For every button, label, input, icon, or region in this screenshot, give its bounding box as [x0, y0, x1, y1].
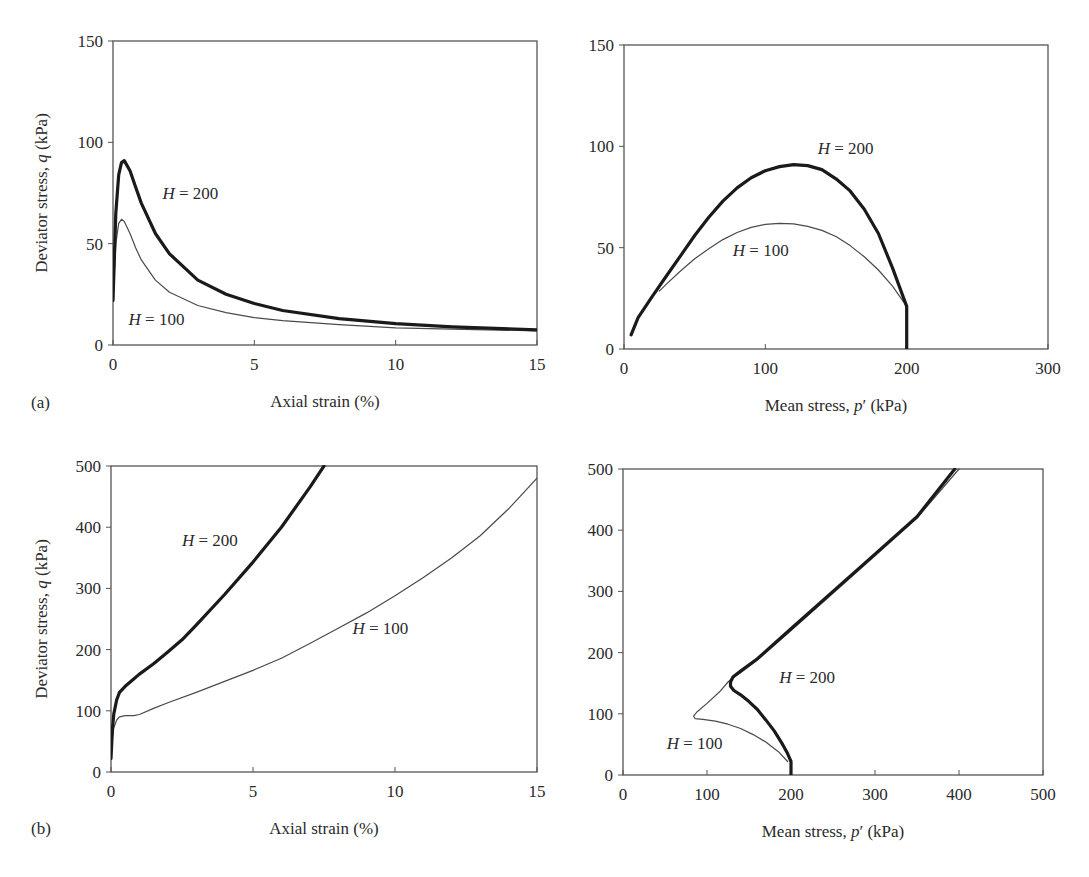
x-tick-label: 0 — [619, 785, 628, 804]
x-tick-label: 300 — [1035, 359, 1061, 378]
x-axis-label: Axial strain (%) — [269, 819, 379, 838]
chart-b-right-stress-path: 01002003004005000100200300400500Mean str… — [588, 460, 1056, 841]
x-tick-label: 10 — [387, 355, 404, 374]
x-axis-label: Axial strain (%) — [270, 392, 380, 411]
y-tick-label: 400 — [588, 521, 614, 540]
x-axis-label: Mean stress, p′ (kPa) — [762, 822, 905, 841]
chart-b-left-stress-strain: 0510150100200300400500Axial strain (%)De… — [32, 457, 546, 838]
x-tick-label: 500 — [1030, 785, 1056, 804]
x-tick-label: 5 — [250, 355, 259, 374]
x-tick-label: 200 — [894, 359, 920, 378]
y-tick-label: 0 — [93, 763, 102, 782]
y-tick-label: 0 — [95, 336, 104, 355]
panel-label-b: (b) — [31, 819, 51, 838]
x-tick-label: 5 — [249, 782, 258, 801]
chart-a-left-stress-strain: 051015050100150Axial strain (%)Deviator … — [32, 32, 546, 411]
series-h100 — [111, 478, 537, 758]
y-tick-label: 100 — [76, 702, 102, 721]
y-tick-label: 50 — [86, 235, 103, 254]
curve-annotation: H = 100 — [666, 734, 723, 753]
y-axis-label: Deviator stress, q (kPa) — [32, 113, 51, 273]
y-tick-label: 100 — [589, 137, 615, 156]
y-tick-label: 0 — [605, 766, 614, 785]
curve-annotation: H = 200 — [817, 139, 874, 158]
x-tick-label: 100 — [694, 785, 720, 804]
curve-annotation: H = 200 — [181, 531, 238, 550]
plot-frame — [623, 469, 1043, 775]
y-tick-label: 0 — [606, 340, 615, 359]
figure: 051015050100150Axial strain (%)Deviator … — [0, 0, 1089, 877]
y-tick-label: 200 — [588, 644, 614, 663]
y-tick-label: 150 — [589, 36, 615, 55]
y-axis-label: Deviator stress, q (kPa) — [32, 539, 51, 699]
x-tick-label: 200 — [778, 785, 804, 804]
x-tick-label: 10 — [387, 782, 404, 801]
y-tick-label: 500 — [588, 460, 614, 479]
x-axis-label: Mean stress, p′ (kPa) — [765, 396, 908, 415]
chart-a-right-stress-path: 0100200300050100150Mean stress, p′ (kPa)… — [589, 36, 1061, 415]
panel-label-a: (a) — [31, 393, 50, 412]
curve-annotation: H = 100 — [732, 241, 789, 260]
curve-annotation: H = 100 — [351, 619, 408, 638]
x-tick-label: 300 — [862, 785, 888, 804]
y-tick-label: 300 — [588, 582, 614, 601]
series-h200 — [111, 466, 324, 759]
y-tick-label: 500 — [76, 457, 102, 476]
x-tick-label: 0 — [109, 355, 118, 374]
curve-annotation: H = 100 — [128, 310, 185, 329]
x-tick-label: 15 — [529, 782, 546, 801]
curve-annotation: H = 200 — [778, 668, 835, 687]
plot-frame — [111, 466, 537, 772]
curve-annotation: H = 200 — [161, 184, 218, 203]
y-tick-label: 150 — [78, 32, 104, 51]
y-tick-label: 50 — [597, 239, 614, 258]
y-tick-label: 200 — [76, 641, 102, 660]
x-tick-label: 100 — [753, 359, 779, 378]
y-tick-label: 300 — [76, 579, 102, 598]
y-tick-label: 100 — [588, 705, 614, 724]
x-tick-label: 0 — [107, 782, 116, 801]
x-tick-label: 15 — [529, 355, 546, 374]
x-tick-label: 400 — [946, 785, 972, 804]
y-tick-label: 400 — [76, 518, 102, 537]
y-tick-label: 100 — [78, 133, 104, 152]
x-tick-label: 0 — [620, 359, 629, 378]
plot-frame — [624, 45, 1048, 349]
series-h200 — [731, 469, 955, 775]
